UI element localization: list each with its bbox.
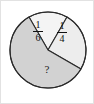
one-quarter-denominator: 4 bbox=[60, 33, 65, 44]
figure-frame: 1 6 1 4 ? bbox=[0, 0, 94, 104]
pie-chart: 1 6 1 4 ? bbox=[1, 1, 94, 104]
unknown-slice-label: ? bbox=[45, 63, 50, 75]
one-sixth-numerator: 1 bbox=[36, 19, 41, 30]
one-quarter-numerator: 1 bbox=[60, 20, 65, 31]
one-sixth-denominator: 6 bbox=[36, 32, 41, 43]
